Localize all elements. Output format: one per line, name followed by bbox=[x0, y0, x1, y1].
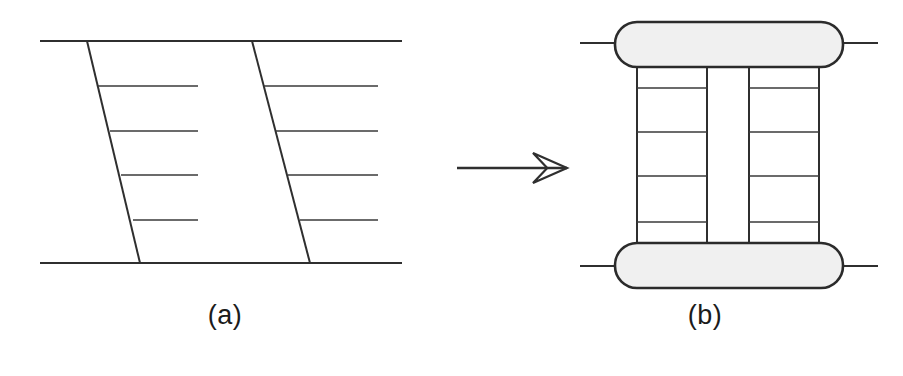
panel-b-caption: (b) bbox=[625, 300, 785, 331]
panel-a-diagram bbox=[40, 41, 402, 263]
bottom-pad bbox=[615, 243, 843, 288]
panel-a-caption: (a) bbox=[145, 300, 305, 331]
panel-b-right-rungs bbox=[749, 88, 819, 222]
transform-arrow-icon bbox=[457, 153, 567, 183]
panel-b-left-rungs bbox=[637, 88, 707, 222]
right-stile bbox=[252, 41, 310, 263]
top-pad bbox=[615, 22, 843, 67]
panel-b-stiles bbox=[637, 67, 819, 243]
panel-a-stiles bbox=[87, 41, 310, 263]
panel-b-diagram bbox=[580, 22, 878, 288]
panel-b-pad-leads bbox=[580, 43, 878, 266]
figure-root: (a) (b) bbox=[0, 0, 903, 376]
panel-b-pads bbox=[615, 22, 843, 288]
left-stile bbox=[87, 41, 140, 263]
